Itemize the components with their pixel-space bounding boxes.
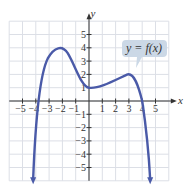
graph: −5−4−3−2−11234554321−1−2−3−4−5 y = f(x) … (0, 0, 186, 189)
svg-text:−1: −1 (75, 109, 86, 120)
callout-label: y = f(x) (125, 41, 162, 55)
svg-text:−5: −5 (75, 162, 86, 173)
svg-text:2: 2 (113, 103, 118, 114)
svg-text:3: 3 (81, 56, 86, 67)
svg-text:−2: −2 (75, 122, 86, 133)
svg-text:5: 5 (81, 29, 86, 40)
svg-text:−3: −3 (42, 103, 53, 114)
svg-text:−2: −2 (55, 103, 66, 114)
svg-text:4: 4 (81, 42, 86, 53)
svg-text:3: 3 (126, 103, 131, 114)
svg-text:−5: −5 (15, 103, 26, 114)
svg-text:−4: −4 (75, 149, 86, 160)
y-axis-label: y (90, 7, 96, 19)
svg-text:2: 2 (81, 69, 86, 80)
svg-text:5: 5 (153, 103, 158, 114)
svg-text:1: 1 (100, 103, 105, 114)
svg-text:−3: −3 (75, 135, 86, 146)
x-axis-label: x (177, 94, 183, 106)
